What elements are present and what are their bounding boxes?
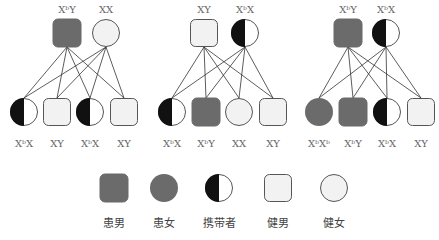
legend-affected-male-label: 患男: [89, 214, 139, 230]
panel-1-child-4: [111, 99, 138, 126]
panel-3-child-1: [305, 98, 333, 126]
panel-1-child-2: [44, 99, 71, 126]
panel-1-parent-genotype: XX: [86, 4, 126, 15]
panel-1-child-genotype: XY: [104, 138, 144, 149]
panel-1-child-3: [76, 98, 104, 126]
panel-1-parent-genotype: XᵇY: [47, 4, 87, 15]
panel-2-parent-mother: [231, 19, 259, 47]
panel-2-child-3: [226, 99, 253, 126]
legend-healthy-female-symbol: [321, 175, 348, 202]
panel-3-parent-genotype: XᵇX: [366, 4, 406, 15]
panel-2-parent-father: [191, 20, 218, 47]
panel-1-parent-father: [53, 19, 81, 47]
pedigree-symbols: [10, 19, 435, 126]
legend-healthy-male-symbol: [265, 175, 292, 202]
pedigree-diagram: [0, 0, 439, 240]
legend-carrier-female-label: 携带者: [194, 214, 244, 230]
legend-carrier-female-symbol: [205, 174, 233, 202]
inheritance-lines: [24, 47, 421, 98]
legend-healthy-female-label: 健女: [309, 214, 359, 230]
panel-2-parent-genotype: XY: [184, 4, 224, 15]
panel-2-child-genotype: XY: [253, 138, 293, 149]
panel-2-child-2: [192, 98, 220, 126]
panel-1-parent-mother: [93, 20, 120, 47]
panel-2-child-1: [158, 98, 186, 126]
legend-symbols: [100, 174, 348, 202]
panel-2-parent-genotype: XᵇX: [225, 4, 265, 15]
panel-2-child-4: [260, 99, 287, 126]
panel-3-parent-mother: [372, 19, 400, 47]
legend-healthy-male-label: 健男: [253, 214, 303, 230]
legend-affected-male-symbol: [100, 174, 128, 202]
panel-1-child-1: [10, 98, 38, 126]
panel-3-parent-genotype: XᵇY: [328, 4, 368, 15]
legend-affected-female-label: 患女: [139, 214, 189, 230]
panel-3-child-2: [339, 98, 367, 126]
panel-3-child-4: [408, 99, 435, 126]
legend-affected-female-symbol: [150, 174, 178, 202]
panel-3-parent-father: [334, 19, 362, 47]
panel-3-child-genotype: XY: [401, 138, 439, 149]
panel-3-child-3: [373, 98, 401, 126]
